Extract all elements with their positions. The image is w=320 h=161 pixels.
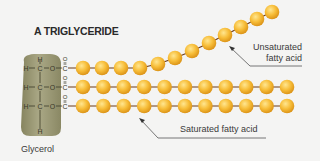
svg-text:H: H: [23, 84, 28, 91]
svg-text:C: C: [62, 65, 67, 72]
unsaturated-label-line2: fatty acid: [266, 53, 302, 63]
svg-text:O: O: [63, 94, 68, 100]
svg-text:H: H: [23, 65, 28, 72]
unsaturated-label-line1: Unsaturated: [253, 42, 302, 52]
svg-text:C: C: [62, 84, 67, 91]
glycerol-backbone: H H H C O O C H C O O: [21, 54, 76, 136]
arrowhead-icon: [229, 46, 235, 51]
saturated-fatty-acid-chain-2: [76, 99, 295, 114]
svg-text:O: O: [63, 56, 68, 62]
svg-text:C: C: [37, 84, 42, 91]
svg-text:C: C: [62, 103, 67, 110]
svg-text:C: C: [37, 103, 42, 110]
svg-text:O: O: [50, 65, 56, 72]
svg-text:O: O: [63, 75, 68, 81]
saturated-label: Saturated fatty acid: [180, 124, 258, 134]
unsaturated-label-group: Unsaturated fatty acid: [229, 42, 302, 66]
svg-text:O: O: [50, 84, 56, 91]
top-h-atom: H: [37, 56, 42, 63]
saturated-fatty-acid-chain-1: [76, 80, 295, 95]
svg-text:H: H: [23, 103, 28, 110]
svg-text:O: O: [50, 103, 56, 110]
arrowhead-icon: [139, 118, 145, 123]
bottom-h-atom: H: [37, 128, 42, 135]
glycerol-label: Glycerol: [21, 144, 54, 154]
triglyceride-diagram: H H H C O O C H C O O: [0, 0, 320, 161]
svg-text:C: C: [37, 65, 42, 72]
saturated-label-group: Saturated fatty acid: [139, 118, 266, 138]
